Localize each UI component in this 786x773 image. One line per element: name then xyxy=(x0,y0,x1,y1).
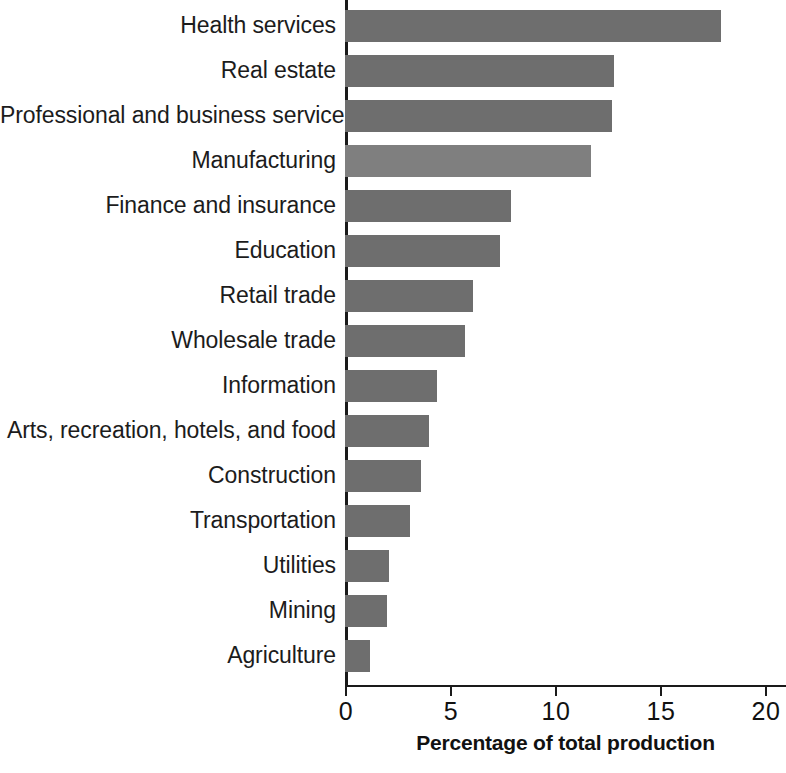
category-label: Transportation xyxy=(0,509,336,532)
category-label: Wholesale trade xyxy=(0,329,336,352)
bar xyxy=(345,235,500,267)
x-axis-tick-label: 10 xyxy=(542,697,571,726)
x-axis-title: Percentage of total production xyxy=(345,731,786,755)
bar xyxy=(345,550,389,582)
bar xyxy=(345,10,721,42)
bar xyxy=(345,100,612,132)
bar xyxy=(345,505,410,537)
bar xyxy=(345,55,614,87)
x-axis-tick xyxy=(765,685,767,696)
plot-area: 05101520 xyxy=(345,0,786,686)
x-axis-tick-label: 15 xyxy=(647,697,676,726)
bar xyxy=(345,460,421,492)
bar xyxy=(345,190,511,222)
category-label: Agriculture xyxy=(0,644,336,667)
category-label: Utilities xyxy=(0,554,336,577)
category-label: Finance and insurance xyxy=(0,194,336,217)
bar xyxy=(345,280,473,312)
category-label: Mining xyxy=(0,599,336,622)
bar-chart: Health servicesReal estateProfessional a… xyxy=(0,0,786,773)
x-axis-tick xyxy=(345,685,347,696)
category-axis-labels: Health servicesReal estateProfessional a… xyxy=(0,0,336,686)
bar xyxy=(345,145,591,177)
category-label: Education xyxy=(0,239,336,262)
x-axis-tick xyxy=(450,685,452,696)
bar xyxy=(345,595,387,627)
category-label: Information xyxy=(0,374,336,397)
category-label: Construction xyxy=(0,464,336,487)
category-label: Health services xyxy=(0,14,336,37)
category-label: Arts, recreation, hotels, and food xyxy=(0,419,336,442)
x-axis-tick xyxy=(660,685,662,696)
category-label: Retail trade xyxy=(0,284,336,307)
bar xyxy=(345,640,370,672)
x-axis-tick-label: 5 xyxy=(444,697,458,726)
category-label: Professional and business services xyxy=(0,104,336,127)
x-axis-tick-label: 0 xyxy=(339,697,353,726)
category-label: Real estate xyxy=(0,59,336,82)
bar xyxy=(345,415,429,447)
bars-layer xyxy=(345,0,786,686)
x-axis-tick-label: 20 xyxy=(752,697,781,726)
category-label: Manufacturing xyxy=(0,149,336,172)
x-axis-tick xyxy=(555,685,557,696)
bar xyxy=(345,370,437,402)
bar xyxy=(345,325,465,357)
